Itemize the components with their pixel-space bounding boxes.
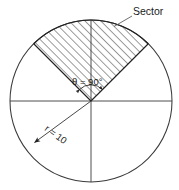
sector-leader-line [114,16,132,27]
sector-diagram: Sector θ = 90° r = 10 [0,0,179,190]
diagram-canvas: Sector θ = 90° r = 10 [0,0,179,190]
sector-label: Sector [133,5,164,17]
angle-label: θ = 90° [72,76,103,87]
